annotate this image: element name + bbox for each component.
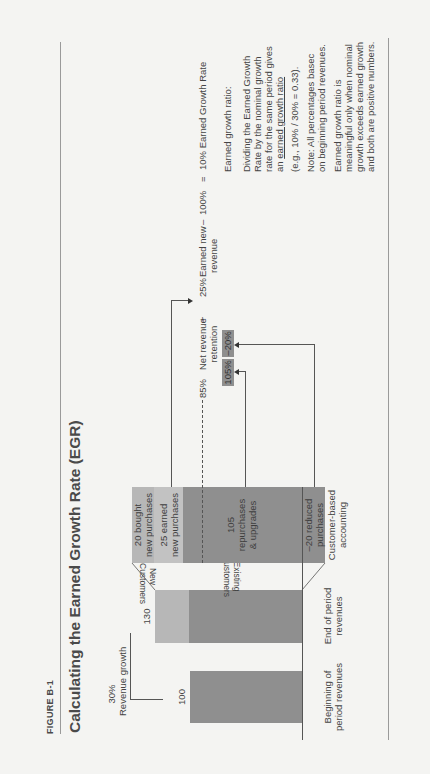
arrow-head-icon (234, 369, 239, 375)
figure-label: FIGURE B-1 (45, 680, 55, 734)
segment-bought-new: 20 boughtnew purchases (132, 487, 154, 563)
figure-title: Calculating the Earned Growth Rate (EGR) (66, 420, 84, 733)
top-rule (60, 42, 61, 734)
end-label: End of periodrevenues (322, 576, 344, 656)
minus-sign: – (197, 220, 208, 225)
notes-heading: Earned growth ratio: (222, 37, 233, 172)
beginning-revenue-bar (190, 671, 302, 723)
end-bar-new-segment (155, 590, 189, 643)
customer-based-label: Customer-basedaccounting (326, 485, 348, 565)
growth-percent: 30% (106, 674, 117, 714)
segment-repurchases: 105repurchases& upgrades (183, 487, 302, 563)
egr-result: 10% Earned Growth Rate (197, 62, 208, 170)
repurchase-percent-box: 105% (222, 359, 234, 386)
plus-sign: + (197, 316, 208, 322)
notes-text: rate for the same period gives (263, 37, 274, 172)
notes-text: Note: All percentages basec (305, 37, 316, 172)
repurchase-arrow-shaft (245, 372, 246, 487)
reduced-arrow-bend (237, 344, 315, 345)
arrow-head-icon (188, 298, 193, 304)
notes-text: on beginning period revenues. (316, 37, 327, 172)
nrr-value: 85% (197, 379, 208, 398)
notes-text: and both are positive numbers. (365, 37, 376, 172)
earned-new-arrow-shaft (171, 301, 172, 487)
notes-text: meaningful only when nominal (343, 37, 354, 172)
enr-value: 25% (197, 278, 208, 297)
nrr-label: Net revenueretention (197, 318, 219, 370)
growth-label: Revenue growth (117, 647, 128, 716)
bottom-rule (388, 38, 389, 740)
notes-text: Rate by the nominal growth (252, 37, 263, 172)
notes-text: Earned growth ratio is (332, 37, 343, 172)
beginning-value: 100 (176, 671, 187, 723)
rotated-figure-page: FIGURE B-1 Calculating the Earned Growth… (0, 0, 430, 774)
notes-text: an earned growth ratio (274, 37, 285, 172)
nrr-dashed-line (202, 400, 203, 563)
growth-bracket-vertical (130, 699, 163, 700)
segment-reduced: –20 reducedpurchases (303, 487, 325, 563)
reduced-arrow-shaft (314, 345, 315, 487)
hundred-percent: 100% (197, 191, 208, 215)
reduced-percent-box: –20% (222, 330, 234, 357)
equals-sign: = (197, 176, 208, 182)
growth-bracket-horizontal (130, 633, 131, 700)
earned-new-arrow-bend (171, 300, 189, 301)
notes-text: Dividing the Earned Growth (241, 37, 252, 172)
earned-growth-ratio-notes: Earned growth ratio: Dividing the Earned… (222, 37, 376, 172)
beginning-label: Beginning ofperiod revenues (322, 657, 344, 737)
new-customers-label: NewCustomers (138, 563, 158, 590)
segment-earned-new: 25 earnednew purchases (154, 487, 183, 563)
notes-example: (e.g., 10% / 30% = 0.33). (289, 37, 300, 172)
arrow-head-icon (234, 342, 239, 348)
end-bar-existing-segment (189, 590, 302, 643)
enr-label: Earned newrevenue (197, 226, 219, 277)
notes-text: growth exceeds earned growth (354, 37, 365, 172)
